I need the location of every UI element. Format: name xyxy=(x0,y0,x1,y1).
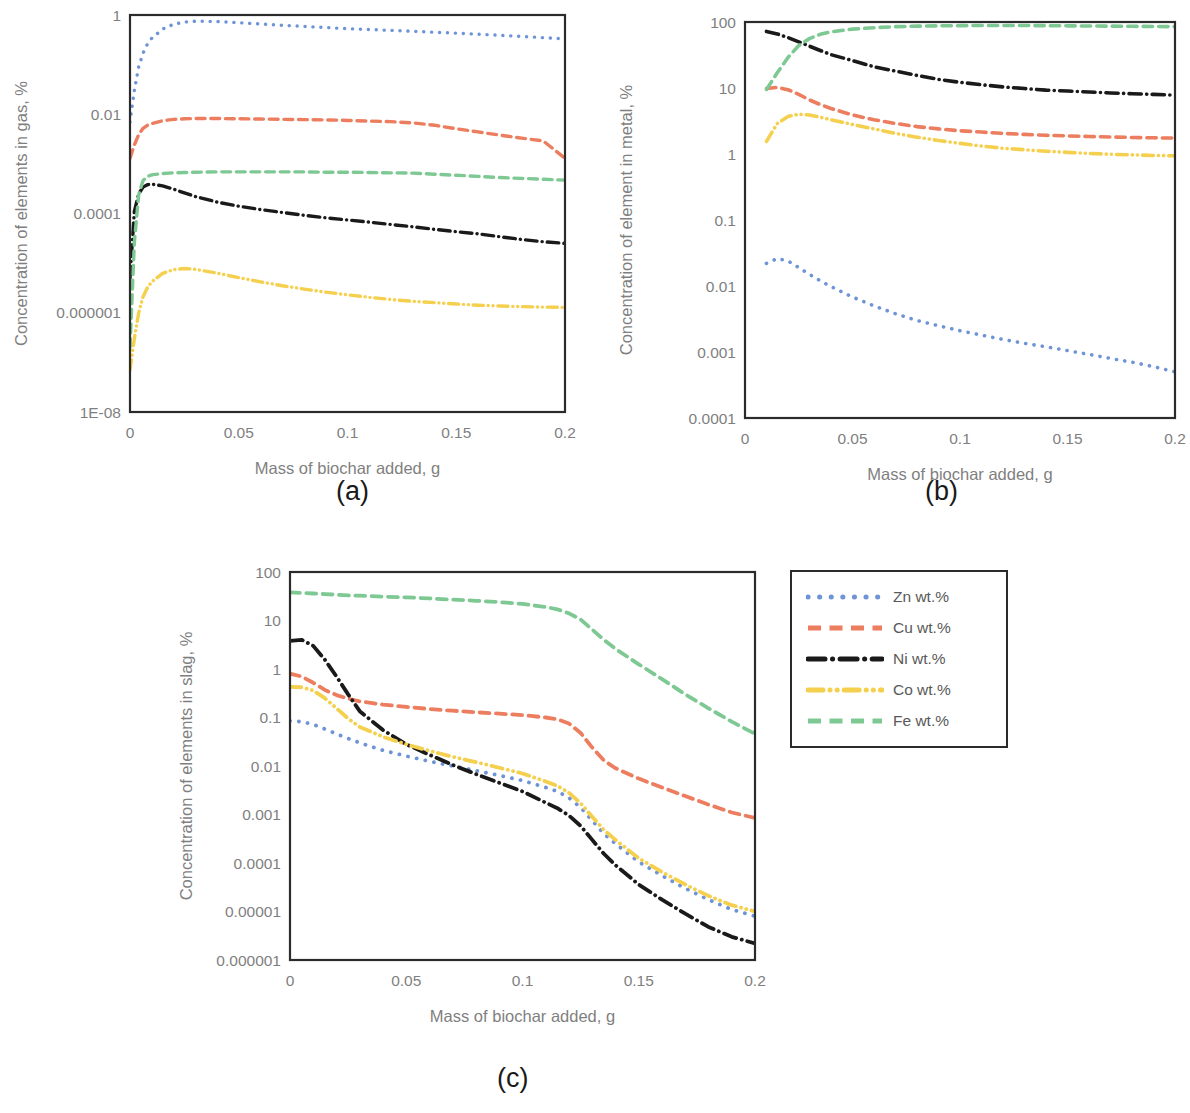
series-line-zn xyxy=(290,721,755,916)
series-line-co xyxy=(130,268,565,370)
x-tick-label: 0.15 xyxy=(441,424,471,441)
panel-b-caption: (b) xyxy=(925,476,958,507)
y-axis-title: Concentration of elements in slag, % xyxy=(177,631,195,900)
y-tick-label: 0.01 xyxy=(91,106,121,123)
series-line-fe xyxy=(767,26,1176,90)
plot-frame xyxy=(290,572,755,960)
y-tick-label: 1E-08 xyxy=(80,404,121,421)
x-tick-label: 0.2 xyxy=(554,424,576,441)
y-tick-label: 0.1 xyxy=(259,709,281,726)
y-tick-label: 0.1 xyxy=(714,212,736,229)
y-axis-title: Concentration of element in metal, % xyxy=(617,84,635,355)
legend-label-co: Co wt.% xyxy=(893,681,951,699)
series-line-ni xyxy=(290,640,755,944)
y-tick-label: 0.000001 xyxy=(216,952,281,969)
x-axis-title: Mass of biochar added, g xyxy=(255,459,440,477)
x-tick-label: 0.05 xyxy=(837,430,867,447)
legend-item-co: Co wt.% xyxy=(806,675,1006,706)
y-axis-title: Concentration of elements in gas, % xyxy=(12,81,30,346)
chart-a-svg: 10.010.00010.0000011E-0800.050.10.150.2M… xyxy=(0,0,600,540)
y-tick-label: 0.0001 xyxy=(234,855,281,872)
y-tick-label: 0.00001 xyxy=(225,903,281,920)
y-tick-label: 10 xyxy=(264,612,282,629)
x-tick-label: 0 xyxy=(741,430,750,447)
series-line-cu xyxy=(130,119,565,159)
panel-c-slag-chart: 1001010.10.010.0010.00010.000010.0000010… xyxy=(160,552,840,1052)
x-tick-label: 0.15 xyxy=(624,972,654,989)
y-tick-label: 1 xyxy=(727,146,736,163)
legend-swatch-cu xyxy=(806,622,884,634)
series-line-cu xyxy=(290,674,755,818)
legend-swatch-ni xyxy=(806,653,884,665)
x-tick-label: 0.05 xyxy=(391,972,421,989)
x-tick-label: 0.1 xyxy=(512,972,534,989)
panel-a-caption: (a) xyxy=(336,476,369,507)
y-tick-label: 0.01 xyxy=(251,758,281,775)
legend-swatch-fe xyxy=(806,715,884,727)
y-tick-label: 0.0001 xyxy=(689,410,736,427)
panel-b-metal-chart: 1001010.10.010.0010.000100.050.10.150.2M… xyxy=(590,0,1190,540)
y-tick-label: 0.001 xyxy=(242,806,281,823)
panel-c-caption: (c) xyxy=(497,1063,528,1094)
y-tick-label: 1 xyxy=(112,7,121,24)
chart-c-svg: 1001010.10.010.0010.00010.000010.0000010… xyxy=(160,552,840,1052)
series-line-ni xyxy=(767,31,1176,95)
x-tick-label: 0.1 xyxy=(949,430,971,447)
series-line-zn xyxy=(130,21,565,122)
series-line-co xyxy=(290,687,755,912)
series-line-zn xyxy=(767,259,1176,372)
x-tick-label: 0.1 xyxy=(337,424,359,441)
legend-swatch-co xyxy=(806,684,884,696)
y-tick-label: 100 xyxy=(710,14,736,31)
legend-item-zn: Zn wt.% xyxy=(806,582,1006,613)
y-tick-label: 10 xyxy=(719,80,737,97)
x-axis-title: Mass of biochar added, g xyxy=(867,465,1052,483)
legend-item-ni: Ni wt.% xyxy=(806,644,1006,675)
legend-swatch-zn xyxy=(806,591,884,603)
legend-label-fe: Fe wt.% xyxy=(893,712,949,730)
series-line-co xyxy=(767,114,1176,156)
y-tick-label: 0.0001 xyxy=(74,205,121,222)
y-tick-label: 0.000001 xyxy=(56,304,121,321)
legend-item-fe: Fe wt.% xyxy=(806,706,1006,737)
panel-a-gas-chart: 10.010.00010.0000011E-0800.050.10.150.2M… xyxy=(0,0,600,540)
y-tick-label: 0.01 xyxy=(706,278,736,295)
x-tick-label: 0 xyxy=(286,972,295,989)
x-tick-label: 0.2 xyxy=(744,972,766,989)
x-axis-title: Mass of biochar added, g xyxy=(430,1007,615,1025)
x-tick-label: 0.05 xyxy=(224,424,254,441)
figure-legend: Zn wt.% Cu wt.% Ni wt.% Co wt.% Fe wt.% xyxy=(790,570,1008,748)
legend-item-cu: Cu wt.% xyxy=(806,613,1006,644)
series-line-cu xyxy=(767,87,1176,138)
legend-label-cu: Cu wt.% xyxy=(893,619,951,637)
x-tick-label: 0.15 xyxy=(1052,430,1082,447)
y-tick-label: 0.001 xyxy=(697,344,736,361)
chart-b-svg: 1001010.10.010.0010.000100.050.10.150.2M… xyxy=(590,0,1190,540)
series-line-ni xyxy=(130,184,565,278)
x-tick-label: 0.2 xyxy=(1164,430,1186,447)
legend-label-zn: Zn wt.% xyxy=(893,588,949,606)
x-tick-label: 0 xyxy=(126,424,135,441)
y-tick-label: 100 xyxy=(255,564,281,581)
legend-label-ni: Ni wt.% xyxy=(893,650,946,668)
y-tick-label: 1 xyxy=(272,661,281,678)
plot-frame xyxy=(130,15,565,412)
plot-frame xyxy=(745,22,1175,418)
